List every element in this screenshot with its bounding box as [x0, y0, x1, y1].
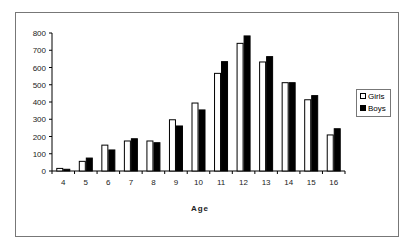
- y-axis: 0100200300400500600700800: [33, 29, 52, 176]
- bar-girls: [79, 161, 85, 171]
- bar-girls: [192, 103, 198, 171]
- bar-boys: [334, 129, 340, 171]
- bar-girls: [282, 83, 288, 171]
- legend: Girls Boys: [356, 89, 391, 117]
- y-tick-label: 400: [33, 98, 47, 107]
- bar-girls: [260, 62, 266, 171]
- bar-chart: 0100200300400500600700800 45678910111213…: [0, 0, 413, 249]
- bar-girls: [102, 145, 108, 171]
- x-axis-title: Age: [191, 204, 209, 213]
- x-tick-label: 16: [329, 178, 338, 187]
- bar-girls: [305, 100, 311, 171]
- x-tick-label: 13: [262, 178, 271, 187]
- bar-girls: [124, 141, 130, 171]
- bars: [57, 36, 340, 171]
- bar-boys: [109, 150, 115, 171]
- bar-girls: [147, 141, 153, 171]
- x-tick-label: 8: [151, 178, 156, 187]
- girls-swatch-icon: [360, 93, 366, 99]
- y-tick-label: 600: [33, 64, 47, 73]
- y-tick-label: 100: [33, 150, 47, 159]
- legend-label-girls: Girls: [368, 92, 384, 101]
- bar-girls: [237, 43, 243, 171]
- x-tick-label: 14: [284, 178, 293, 187]
- legend-item-boys: Boys: [357, 102, 390, 114]
- x-tick-label: 15: [307, 178, 316, 187]
- bar-boys: [312, 96, 318, 171]
- y-tick-label: 0: [42, 167, 47, 176]
- bar-boys: [289, 83, 295, 171]
- bar-boys: [267, 57, 273, 171]
- y-tick-label: 500: [33, 81, 47, 90]
- x-tick-label: 11: [217, 178, 226, 187]
- x-tick-label: 12: [239, 178, 248, 187]
- y-tick-label: 800: [33, 29, 47, 38]
- legend-label-boys: Boys: [368, 104, 386, 113]
- bar-girls: [215, 73, 221, 171]
- bar-boys: [86, 158, 92, 171]
- x-tick-label: 7: [129, 178, 134, 187]
- y-tick-label: 300: [33, 115, 47, 124]
- y-tick-label: 200: [33, 133, 47, 142]
- bar-boys: [64, 169, 70, 171]
- bar-boys: [199, 110, 205, 171]
- legend-item-girls: Girls: [357, 90, 390, 102]
- bar-boys: [154, 143, 160, 171]
- bar-girls: [57, 168, 63, 171]
- bar-girls: [169, 120, 175, 171]
- bar-boys: [222, 62, 228, 171]
- x-tick-label: 10: [194, 178, 203, 187]
- x-tick-label: 5: [84, 178, 89, 187]
- x-axis: 45678910111213141516: [52, 171, 345, 187]
- bar-boys: [176, 126, 182, 171]
- bar-boys: [131, 139, 137, 171]
- x-tick-label: 4: [61, 178, 66, 187]
- x-tick-label: 6: [106, 178, 111, 187]
- bar-boys: [244, 36, 250, 171]
- boys-swatch-icon: [360, 105, 366, 111]
- bar-girls: [327, 135, 333, 171]
- y-tick-label: 700: [33, 46, 47, 55]
- x-tick-label: 9: [174, 178, 179, 187]
